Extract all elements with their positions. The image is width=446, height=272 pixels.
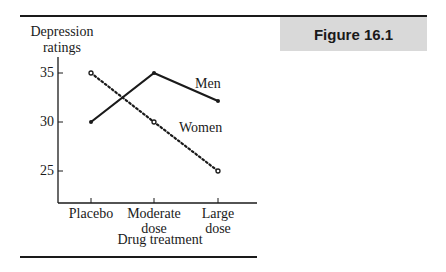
x-tick-label-line: Moderate: [119, 206, 189, 221]
women-point: [89, 71, 93, 75]
bottom-rule: [20, 256, 257, 258]
x-tick-label-line: Large: [183, 206, 253, 221]
y-tick-label: 25: [24, 163, 54, 179]
x-axis-label: Drug treatment: [110, 232, 210, 248]
y-tick-label: 30: [24, 114, 54, 130]
y-tick-label: 35: [24, 65, 54, 81]
men-point: [89, 120, 93, 124]
women-point: [152, 120, 156, 124]
x-tick-label-line: Placebo: [56, 206, 126, 221]
series-label-women: Women: [179, 120, 222, 136]
men-point: [216, 99, 220, 103]
women-point: [216, 169, 220, 173]
men-point: [152, 71, 156, 75]
series-label-men: Men: [195, 76, 221, 92]
x-tick-label-placebo: Placebo: [56, 206, 126, 221]
